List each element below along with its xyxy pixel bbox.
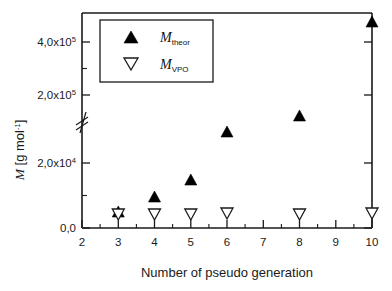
data-point bbox=[294, 209, 306, 220]
legend: Mtheor MVPO bbox=[100, 20, 213, 82]
y-tick-label-zero: 0,0 bbox=[60, 222, 76, 234]
y-axis-ticks-right bbox=[364, 42, 372, 228]
data-point bbox=[185, 174, 197, 185]
x-axis-tick-labels: 2 3 4 5 6 7 8 9 10 bbox=[79, 236, 379, 248]
series-m-vpo-points bbox=[112, 208, 378, 220]
x-tick-label-10: 10 bbox=[366, 236, 379, 248]
scatter-plot: 4,0x105 2,0x105 2,0x104 0,0 2 3 4 5 6 7 … bbox=[0, 0, 392, 291]
data-point bbox=[149, 209, 161, 220]
data-point bbox=[366, 16, 378, 27]
y-axis-tick-labels: 4,0x105 2,0x105 2,0x104 0,0 bbox=[37, 35, 76, 234]
x-axis-title: Number of pseudo generation bbox=[141, 265, 313, 280]
x-tick-label-9: 9 bbox=[333, 236, 339, 248]
data-point bbox=[366, 208, 378, 219]
chart-figure: 4,0x105 2,0x105 2,0x104 0,0 2 3 4 5 6 7 … bbox=[0, 0, 392, 291]
x-tick-label-2: 2 bbox=[79, 236, 85, 248]
y-axis-ticks bbox=[82, 42, 90, 228]
data-point bbox=[221, 126, 233, 137]
x-tick-label-3: 3 bbox=[115, 236, 121, 248]
data-point bbox=[149, 191, 161, 202]
x-tick-label-6: 6 bbox=[224, 236, 230, 248]
data-point bbox=[294, 110, 306, 121]
y-tick-label-2e4: 2,0x104 bbox=[37, 156, 76, 169]
x-tick-label-8: 8 bbox=[296, 236, 302, 248]
x-tick-label-5: 5 bbox=[188, 236, 194, 248]
x-tick-label-4: 4 bbox=[151, 236, 158, 248]
y-tick-label-2e5: 2,0x105 bbox=[37, 88, 76, 101]
x-axis-ticks bbox=[82, 220, 372, 228]
y-axis-title: M [g mol-1] bbox=[12, 120, 27, 182]
data-point bbox=[185, 209, 197, 220]
data-point bbox=[221, 208, 233, 219]
y-tick-label-4e5: 4,0x105 bbox=[37, 35, 76, 48]
x-tick-label-7: 7 bbox=[260, 236, 266, 248]
legend-box bbox=[100, 20, 213, 82]
